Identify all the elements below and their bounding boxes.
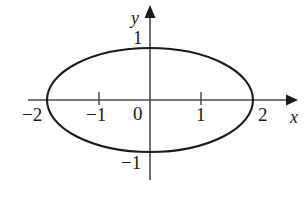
y-tick-label-pos1: 1 (133, 28, 143, 47)
figure-root: −2 −1 0 1 2 1 −1 y x (0, 0, 308, 210)
x-tick-label-pos1: 1 (196, 105, 206, 124)
x-tick-label-pos2: 2 (258, 105, 268, 124)
y-axis-name-label: y (131, 9, 139, 27)
x-axis-arrowhead (286, 95, 298, 106)
x-axis-name-label: x (290, 108, 298, 126)
x-tick-label-neg2: −2 (22, 105, 42, 124)
y-axis-arrowhead (145, 5, 156, 18)
y-tick-label-neg1: −1 (121, 153, 141, 172)
origin-label: 0 (133, 104, 143, 123)
x-tick-label-neg1: −1 (86, 105, 106, 124)
